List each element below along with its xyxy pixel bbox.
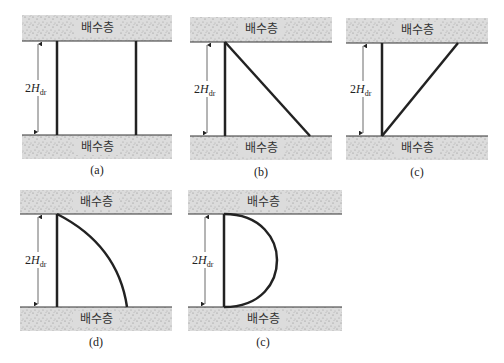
panel-a: [22, 15, 172, 159]
layer-label: 배수층: [401, 141, 434, 155]
caption-d: (d): [89, 335, 103, 349]
diagram-canvas: 배수층 배수층 배수층 배수층 배수층 배수층 배수층 배수층 배수층 배수층 …: [0, 0, 504, 363]
layer-label: 배수층: [245, 141, 278, 155]
layer-label: 배수층: [245, 22, 278, 36]
caption-e: (c): [256, 335, 269, 349]
layer-label: 배수층: [401, 23, 434, 37]
layer-label: 배수층: [80, 312, 113, 326]
caption-a: (a): [90, 163, 103, 177]
caption-c: (c): [410, 165, 423, 179]
layer-label: 배수층: [81, 140, 114, 154]
layer-label: 배수층: [80, 195, 113, 209]
layer-label: 배수층: [247, 312, 280, 326]
caption-b: (b): [254, 165, 268, 179]
layer-label: 배수층: [81, 21, 114, 35]
layer-label: 배수층: [247, 195, 280, 209]
